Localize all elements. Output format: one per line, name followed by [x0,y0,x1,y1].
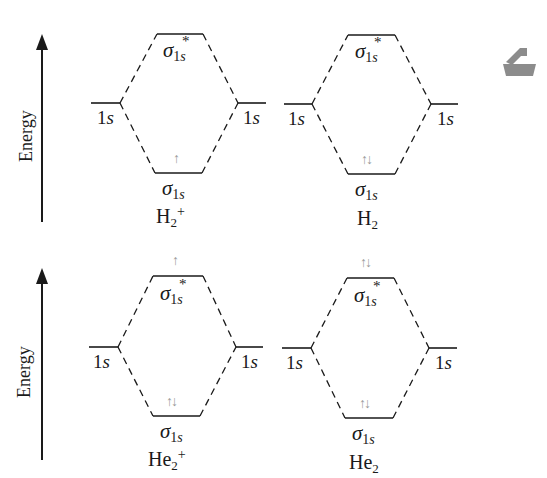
bonding-label: σ1s [355,179,378,203]
atomic-orbital-label-left: 1s [93,352,110,371]
antibonding-electrons: ↑↓ [360,256,370,270]
bonding-label: σ1s [162,178,185,202]
atomic-orbital-label-left: 1s [288,109,305,128]
antibonding-label: σ1s* [160,283,183,307]
mo-diagram-canvas [0,0,547,478]
bonding-electrons: ↑ [173,152,180,166]
antibonding-label: σ1s* [355,41,378,65]
atomic-orbital-label-right: 1s [435,353,452,372]
antibonding-electrons: ↑ [172,254,179,268]
energy-axis-bottom [36,268,48,460]
molecule-label: He2+ [148,448,186,472]
molecule-label: H2+ [156,205,185,229]
molecule-label: He2 [349,451,379,475]
atomic-orbital-label-right: 1s [241,352,258,371]
bonding-electrons: ↑↓ [166,395,176,409]
bookmark-tray-icon[interactable] [503,48,536,76]
antibonding-label: σ1s* [163,40,186,64]
antibonding-label: σ1s* [354,285,377,309]
bonding-label: σ1s [352,423,375,447]
atomic-orbital-label-left: 1s [97,108,114,127]
molecule-label: H2 [357,207,378,231]
atomic-orbital-label-left: 1s [286,353,303,372]
atomic-orbital-label-right: 1s [437,109,454,128]
atomic-orbital-label-right: 1s [243,108,260,127]
energy-axis-label-bottom: Energy [15,346,33,398]
energy-axis-label-top: Energy [17,110,35,162]
bonding-label: σ1s [160,421,183,445]
bonding-electrons: ↑↓ [359,397,369,411]
energy-axis-top [36,34,48,222]
bonding-electrons: ↑↓ [361,153,371,167]
